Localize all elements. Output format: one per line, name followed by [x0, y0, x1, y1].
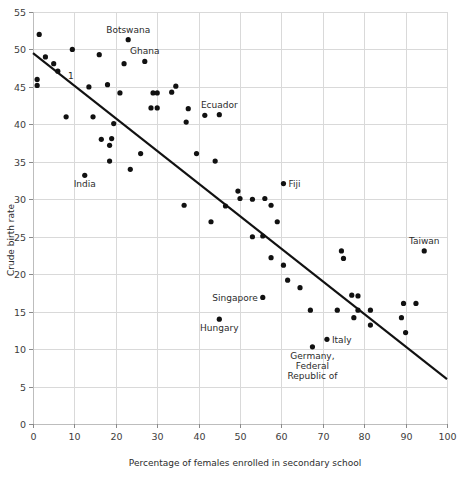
scatter-chart-svg: 0510152025303540455055 01020304050607080…	[0, 0, 458, 487]
data-point	[349, 293, 354, 298]
y-tick-label: 50	[14, 44, 26, 55]
data-point	[268, 203, 273, 208]
point-label: Ghana	[130, 46, 159, 56]
x-tick-label: 70	[317, 431, 329, 442]
x-axis-title: Percentage of females enrolled in second…	[129, 458, 361, 468]
data-point	[250, 197, 255, 202]
data-point	[401, 301, 406, 306]
x-tick-label: 60	[275, 431, 287, 442]
data-point	[223, 203, 228, 208]
x-tick-label: 50	[234, 431, 246, 442]
point-label-line: Federal	[296, 361, 329, 371]
data-point	[413, 301, 418, 306]
data-point	[155, 90, 160, 95]
data-point-labeled	[281, 181, 286, 186]
data-point	[182, 203, 187, 208]
data-point	[107, 143, 112, 148]
data-point	[109, 136, 114, 141]
y-tick-label: 0	[20, 419, 26, 430]
x-tick-label: 0	[30, 431, 36, 442]
data-point	[43, 54, 48, 59]
data-point	[281, 263, 286, 268]
data-point	[184, 120, 189, 125]
x-tick-label: 10	[68, 431, 80, 442]
data-point	[351, 315, 356, 320]
data-point	[186, 106, 191, 111]
data-point	[107, 158, 112, 163]
data-point	[64, 114, 69, 119]
data-point	[235, 188, 240, 193]
data-point-labeled	[422, 248, 427, 253]
chart-annotation: 1	[68, 71, 74, 81]
data-point	[37, 32, 42, 37]
data-point	[51, 61, 56, 66]
x-tick-label: 100	[438, 431, 456, 442]
data-point	[341, 256, 346, 261]
y-axis-title: Crude birth rate	[6, 203, 16, 276]
x-tick-label: 40	[193, 431, 205, 442]
y-tick-label: 30	[14, 194, 26, 205]
data-point-labeled	[142, 59, 147, 64]
scatter-chart-container: 0510152025303540455055 01020304050607080…	[0, 0, 458, 487]
point-label-line: Germany,	[290, 351, 334, 361]
data-point	[169, 90, 174, 95]
y-tick-label: 15	[14, 307, 26, 318]
x-axis-ticks: 0102030405060708090100	[30, 424, 456, 442]
data-point	[173, 84, 178, 89]
data-point	[86, 84, 91, 89]
y-tick-label: 40	[14, 119, 26, 130]
data-point-labeled	[126, 37, 131, 42]
data-point	[368, 308, 373, 313]
data-point	[35, 83, 40, 88]
x-tick-label: 30	[151, 431, 163, 442]
data-point	[208, 219, 213, 224]
data-point	[335, 308, 340, 313]
y-tick-label: 45	[14, 82, 26, 93]
data-point	[399, 315, 404, 320]
point-labels-group: BotswanaGhanaEcuadorIndiaFijiTaiwanSinga…	[68, 25, 439, 381]
y-tick-label: 5	[20, 382, 26, 393]
y-tick-label: 35	[14, 157, 26, 168]
data-point	[260, 233, 265, 238]
data-point	[138, 151, 143, 156]
y-tick-label: 10	[14, 344, 26, 355]
data-point-labeled	[324, 337, 329, 342]
data-point	[368, 323, 373, 328]
data-point	[148, 105, 153, 110]
data-point	[262, 196, 267, 201]
data-point	[99, 137, 104, 142]
data-point	[128, 167, 133, 172]
x-tick-label: 80	[358, 431, 370, 442]
data-point	[111, 121, 116, 126]
data-point	[105, 82, 110, 87]
data-point	[35, 77, 40, 82]
point-label: Italy	[332, 335, 352, 345]
data-point-labeled	[82, 173, 87, 178]
data-point	[70, 47, 75, 52]
y-axis-ticks: 0510152025303540455055	[14, 7, 33, 430]
data-point	[213, 158, 218, 163]
y-tick-label: 55	[14, 7, 26, 18]
data-point-labeled	[217, 317, 222, 322]
data-point	[355, 308, 360, 313]
data-point	[297, 285, 302, 290]
data-point	[194, 151, 199, 156]
point-label: Hungary	[200, 323, 239, 333]
data-point	[308, 308, 313, 313]
data-point	[237, 196, 242, 201]
grid-lines	[33, 12, 448, 424]
data-point	[55, 69, 60, 74]
data-point-labeled	[260, 295, 265, 300]
data-point	[268, 255, 273, 260]
data-point	[339, 248, 344, 253]
point-label: Fiji	[288, 179, 300, 189]
point-label: Singapore	[212, 293, 258, 303]
data-point	[117, 90, 122, 95]
data-point	[250, 234, 255, 239]
data-point	[202, 113, 207, 118]
data-point	[155, 105, 160, 110]
data-point	[355, 293, 360, 298]
data-point	[403, 330, 408, 335]
point-label: Ecuador	[201, 100, 238, 110]
point-label-line: Republic of	[287, 371, 338, 381]
